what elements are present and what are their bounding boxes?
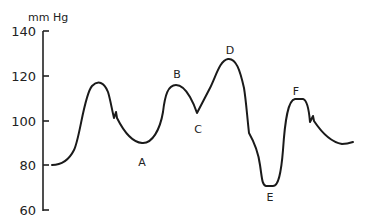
y-tick-120: 120 — [11, 69, 36, 84]
point-label-d: D — [226, 44, 234, 57]
point-label-e: E — [267, 191, 274, 204]
y-axis — [43, 31, 49, 211]
y-tick-140: 140 — [11, 24, 36, 39]
y-tick-60: 60 — [19, 203, 36, 218]
chart: mm Hg 140 120 100 80 60 A B C D E F — [0, 0, 367, 222]
point-label-c: C — [194, 123, 202, 136]
y-tick-100: 100 — [11, 114, 36, 129]
pressure-waveform — [52, 59, 353, 186]
y-axis-unit-label: mm Hg — [28, 11, 68, 24]
point-label-a: A — [138, 156, 146, 169]
point-label-b: B — [173, 68, 181, 81]
y-tick-80: 80 — [19, 158, 36, 173]
point-label-f: F — [293, 85, 299, 98]
